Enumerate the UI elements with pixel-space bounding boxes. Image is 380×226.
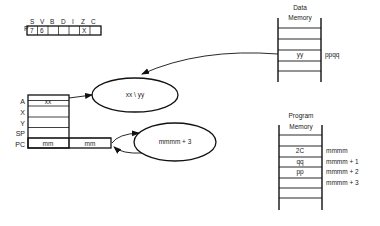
pc-increment-ellipse: mmmm + 3 — [134, 123, 216, 161]
data-memory-title-1: Data — [293, 4, 307, 11]
register-label-a: A — [20, 98, 25, 105]
program-memory: Program Memory 2C qq pp mmmm mmmm + 1 mm… — [279, 112, 359, 210]
program-memory-cell-qq: qq — [296, 158, 304, 166]
flag-cell-s: 7 — [30, 27, 34, 34]
svg-text:xx \ yy: xx \ yy — [126, 91, 145, 99]
status-flags-register: P S V B D I Z C 7 6 X — [24, 18, 101, 35]
program-memory-title-2: Memory — [289, 123, 313, 131]
flag-bit-d: D — [61, 18, 66, 25]
register-label-pc: PC — [15, 141, 25, 148]
program-memory-cell-pp: pp — [296, 168, 304, 176]
register-label-y: Y — [20, 120, 25, 127]
program-address-0: mmmm — [326, 147, 348, 154]
flag-bit-v: V — [40, 18, 45, 25]
flag-cell-v: 6 — [40, 27, 44, 34]
data-memory: Data Memory yy ppqq — [278, 4, 340, 82]
flag-bit-z: Z — [81, 18, 85, 25]
register-a-value: xx — [45, 98, 52, 105]
flag-bit-s: S — [30, 18, 35, 25]
svg-text:mmmm + 3: mmmm + 3 — [159, 138, 192, 145]
register-label-x: X — [20, 109, 25, 116]
program-address-2: mmmm + 2 — [326, 168, 359, 175]
flag-bit-b: B — [50, 18, 54, 25]
pc-low-byte: mm — [85, 140, 96, 147]
and-operation-ellipse: xx \ yy — [92, 78, 178, 112]
data-memory-cell-yy: yy — [297, 51, 304, 59]
program-memory-cell-2c: 2C — [296, 147, 305, 154]
data-memory-title-2: Memory — [288, 14, 312, 22]
flag-bit-i: I — [72, 18, 74, 25]
program-address-3: mmmm + 3 — [326, 179, 359, 186]
program-memory-title-1: Program — [289, 112, 314, 120]
data-memory-address: ppqq — [325, 51, 340, 59]
arrow-memory-to-and — [142, 53, 278, 74]
program-address-1: mmmm + 1 — [326, 158, 359, 165]
diagram-canvas: P S V B D I Z C 7 6 X A X Y — [0, 0, 380, 226]
register-label-sp: SP — [16, 130, 26, 137]
pc-high-byte: mm — [43, 140, 54, 147]
flag-cell-z: X — [82, 27, 87, 34]
flag-bit-c: C — [91, 18, 96, 25]
arrow-a-to-and — [69, 95, 92, 98]
